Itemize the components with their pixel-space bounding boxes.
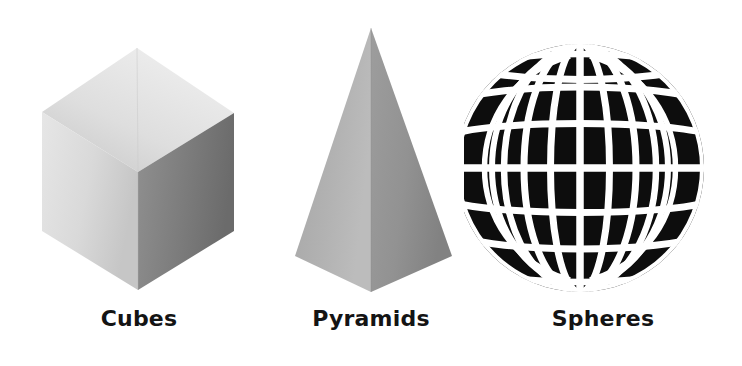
label-spheres: Spheres [464, 306, 742, 331]
label-cubes: Cubes [0, 306, 278, 331]
sphere-body [464, 28, 710, 309]
label-pyramids: Pyramids [278, 306, 464, 331]
shapes-illustration: Cubes Pyramids [0, 0, 742, 366]
figure-cube: Cubes [0, 0, 278, 366]
figure-sphere: Spheres [464, 0, 742, 366]
figure-pyramid: Pyramids [278, 0, 464, 366]
